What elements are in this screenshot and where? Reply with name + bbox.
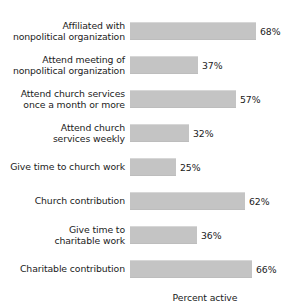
bar-area: 66% bbox=[130, 252, 300, 286]
x-axis-label: Percent active bbox=[130, 292, 280, 303]
bar-area: 62% bbox=[130, 184, 300, 218]
category-label: Charitable contribution bbox=[0, 263, 130, 274]
chart-row: Attend church services once a month or m… bbox=[0, 82, 300, 116]
value-label: 66% bbox=[256, 264, 276, 275]
chart-row: Attend church services weekly 32% bbox=[0, 116, 300, 150]
value-label: 57% bbox=[240, 94, 260, 105]
category-label: Give time to charitable work bbox=[0, 224, 130, 246]
value-label: 32% bbox=[193, 128, 213, 139]
bar-area: 36% bbox=[130, 218, 300, 252]
bar bbox=[130, 22, 256, 40]
category-label: Affiliated with nonpolitical organizatio… bbox=[0, 20, 130, 42]
bar bbox=[130, 56, 198, 74]
bar bbox=[130, 192, 245, 210]
category-label: Church contribution bbox=[0, 195, 130, 206]
bar bbox=[130, 158, 176, 176]
bar-area: 25% bbox=[130, 150, 300, 184]
bar-area: 32% bbox=[130, 116, 300, 150]
value-label: 25% bbox=[180, 162, 200, 173]
bar bbox=[130, 260, 252, 278]
value-label: 36% bbox=[201, 230, 221, 241]
bar bbox=[130, 226, 197, 244]
category-label: Attend church services weekly bbox=[0, 122, 130, 144]
chart-row: Give time to church work 25% bbox=[0, 150, 300, 184]
chart-row: Attend meeting of nonpolitical organizat… bbox=[0, 48, 300, 82]
bar-area: 68% bbox=[130, 14, 300, 48]
chart-row: Give time to charitable work 36% bbox=[0, 218, 300, 252]
bar-area: 57% bbox=[130, 82, 300, 116]
category-label: Give time to church work bbox=[0, 161, 130, 172]
chart-row: Charitable contribution 66% bbox=[0, 252, 300, 286]
category-label: Attend church services once a month or m… bbox=[0, 88, 130, 110]
value-label: 62% bbox=[249, 196, 269, 207]
bar-area: 37% bbox=[130, 48, 300, 82]
chart-row: Affiliated with nonpolitical organizatio… bbox=[0, 14, 300, 48]
chart-row: Church contribution 62% bbox=[0, 184, 300, 218]
value-label: 37% bbox=[202, 60, 222, 71]
value-label: 68% bbox=[260, 26, 280, 37]
bar bbox=[130, 124, 189, 142]
bar bbox=[130, 90, 236, 108]
category-label: Attend meeting of nonpolitical organizat… bbox=[0, 54, 130, 76]
